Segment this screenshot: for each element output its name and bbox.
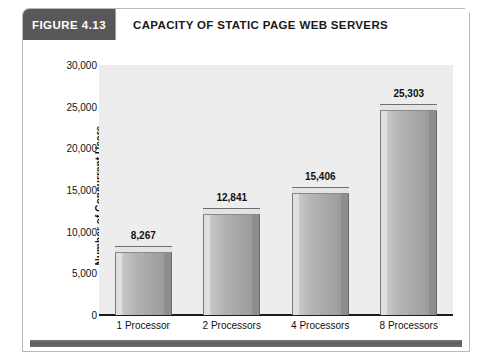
bar[interactable] [292, 187, 349, 315]
bar[interactable] [115, 246, 172, 315]
bar-group[interactable]: 25,303 [380, 104, 437, 315]
bar-value-label: 8,267 [115, 230, 172, 241]
bar-face-top [380, 104, 437, 111]
bar-face-top [115, 246, 172, 253]
y-axis-tick-label: 25,000 [66, 101, 97, 112]
bar-face-top [292, 187, 349, 194]
y-axis-tick-label: 20,000 [66, 143, 97, 154]
bars-layer: 8,26712,84115,40625,303 [99, 65, 453, 315]
bar-face-front [299, 194, 341, 315]
figure-number-badge: FIGURE 4.13 [23, 9, 115, 40]
bar-face-left [115, 253, 122, 315]
y-axis-tick-label: 15,000 [66, 185, 97, 196]
y-axis-tick-label: 30,000 [66, 60, 97, 71]
bar-face-top [203, 208, 260, 215]
bar[interactable] [380, 104, 437, 315]
bar-face-right [341, 194, 349, 315]
bar-face-right [164, 253, 172, 315]
x-axis-tick-label: 4 Processors [276, 320, 365, 331]
bar-face-left [203, 215, 210, 315]
bar-value-label: 15,406 [292, 171, 349, 182]
chart-body: Number of Concurrent Users 05,00010,0001… [23, 40, 469, 345]
x-axis-tick-label: 8 Processors [365, 320, 454, 331]
bar-face-front [210, 215, 252, 315]
bar-face-front [387, 111, 429, 315]
y-axis-tick-label: 10,000 [66, 226, 97, 237]
figure-card: FIGURE 4.13 CAPACITY OF STATIC PAGE WEB … [22, 8, 470, 352]
y-axis-tick-labels: 05,00010,00015,00020,00025,00030,000 [45, 65, 97, 315]
y-axis-tick-label: 0 [91, 310, 97, 321]
bar-face-left [380, 111, 387, 315]
y-axis-tick-label: 5,000 [72, 268, 97, 279]
bar-face-left [292, 194, 299, 315]
bar-group[interactable]: 15,406 [292, 187, 349, 315]
bar-group[interactable]: 8,267 [115, 246, 172, 315]
figure-title-area: CAPACITY OF STATIC PAGE WEB SERVERS [115, 9, 469, 40]
x-axis-tick-label: 2 Processors [188, 320, 277, 331]
bar[interactable] [203, 208, 260, 315]
bar-group[interactable]: 12,841 [203, 208, 260, 315]
x-axis-tick-label: 1 Processor [99, 320, 188, 331]
bar-face-front [122, 253, 164, 315]
figure-title: CAPACITY OF STATIC PAGE WEB SERVERS [116, 19, 388, 31]
bar-value-label: 25,303 [380, 88, 437, 99]
figure-footer-rule [30, 340, 462, 347]
x-axis-tick-labels: 1 Processor2 Processors4 Processors8 Pro… [99, 320, 453, 338]
bar-face-right [429, 111, 437, 315]
bar-value-label: 12,841 [203, 192, 260, 203]
figure-header: FIGURE 4.13 CAPACITY OF STATIC PAGE WEB … [23, 9, 469, 40]
bar-face-right [252, 215, 260, 315]
